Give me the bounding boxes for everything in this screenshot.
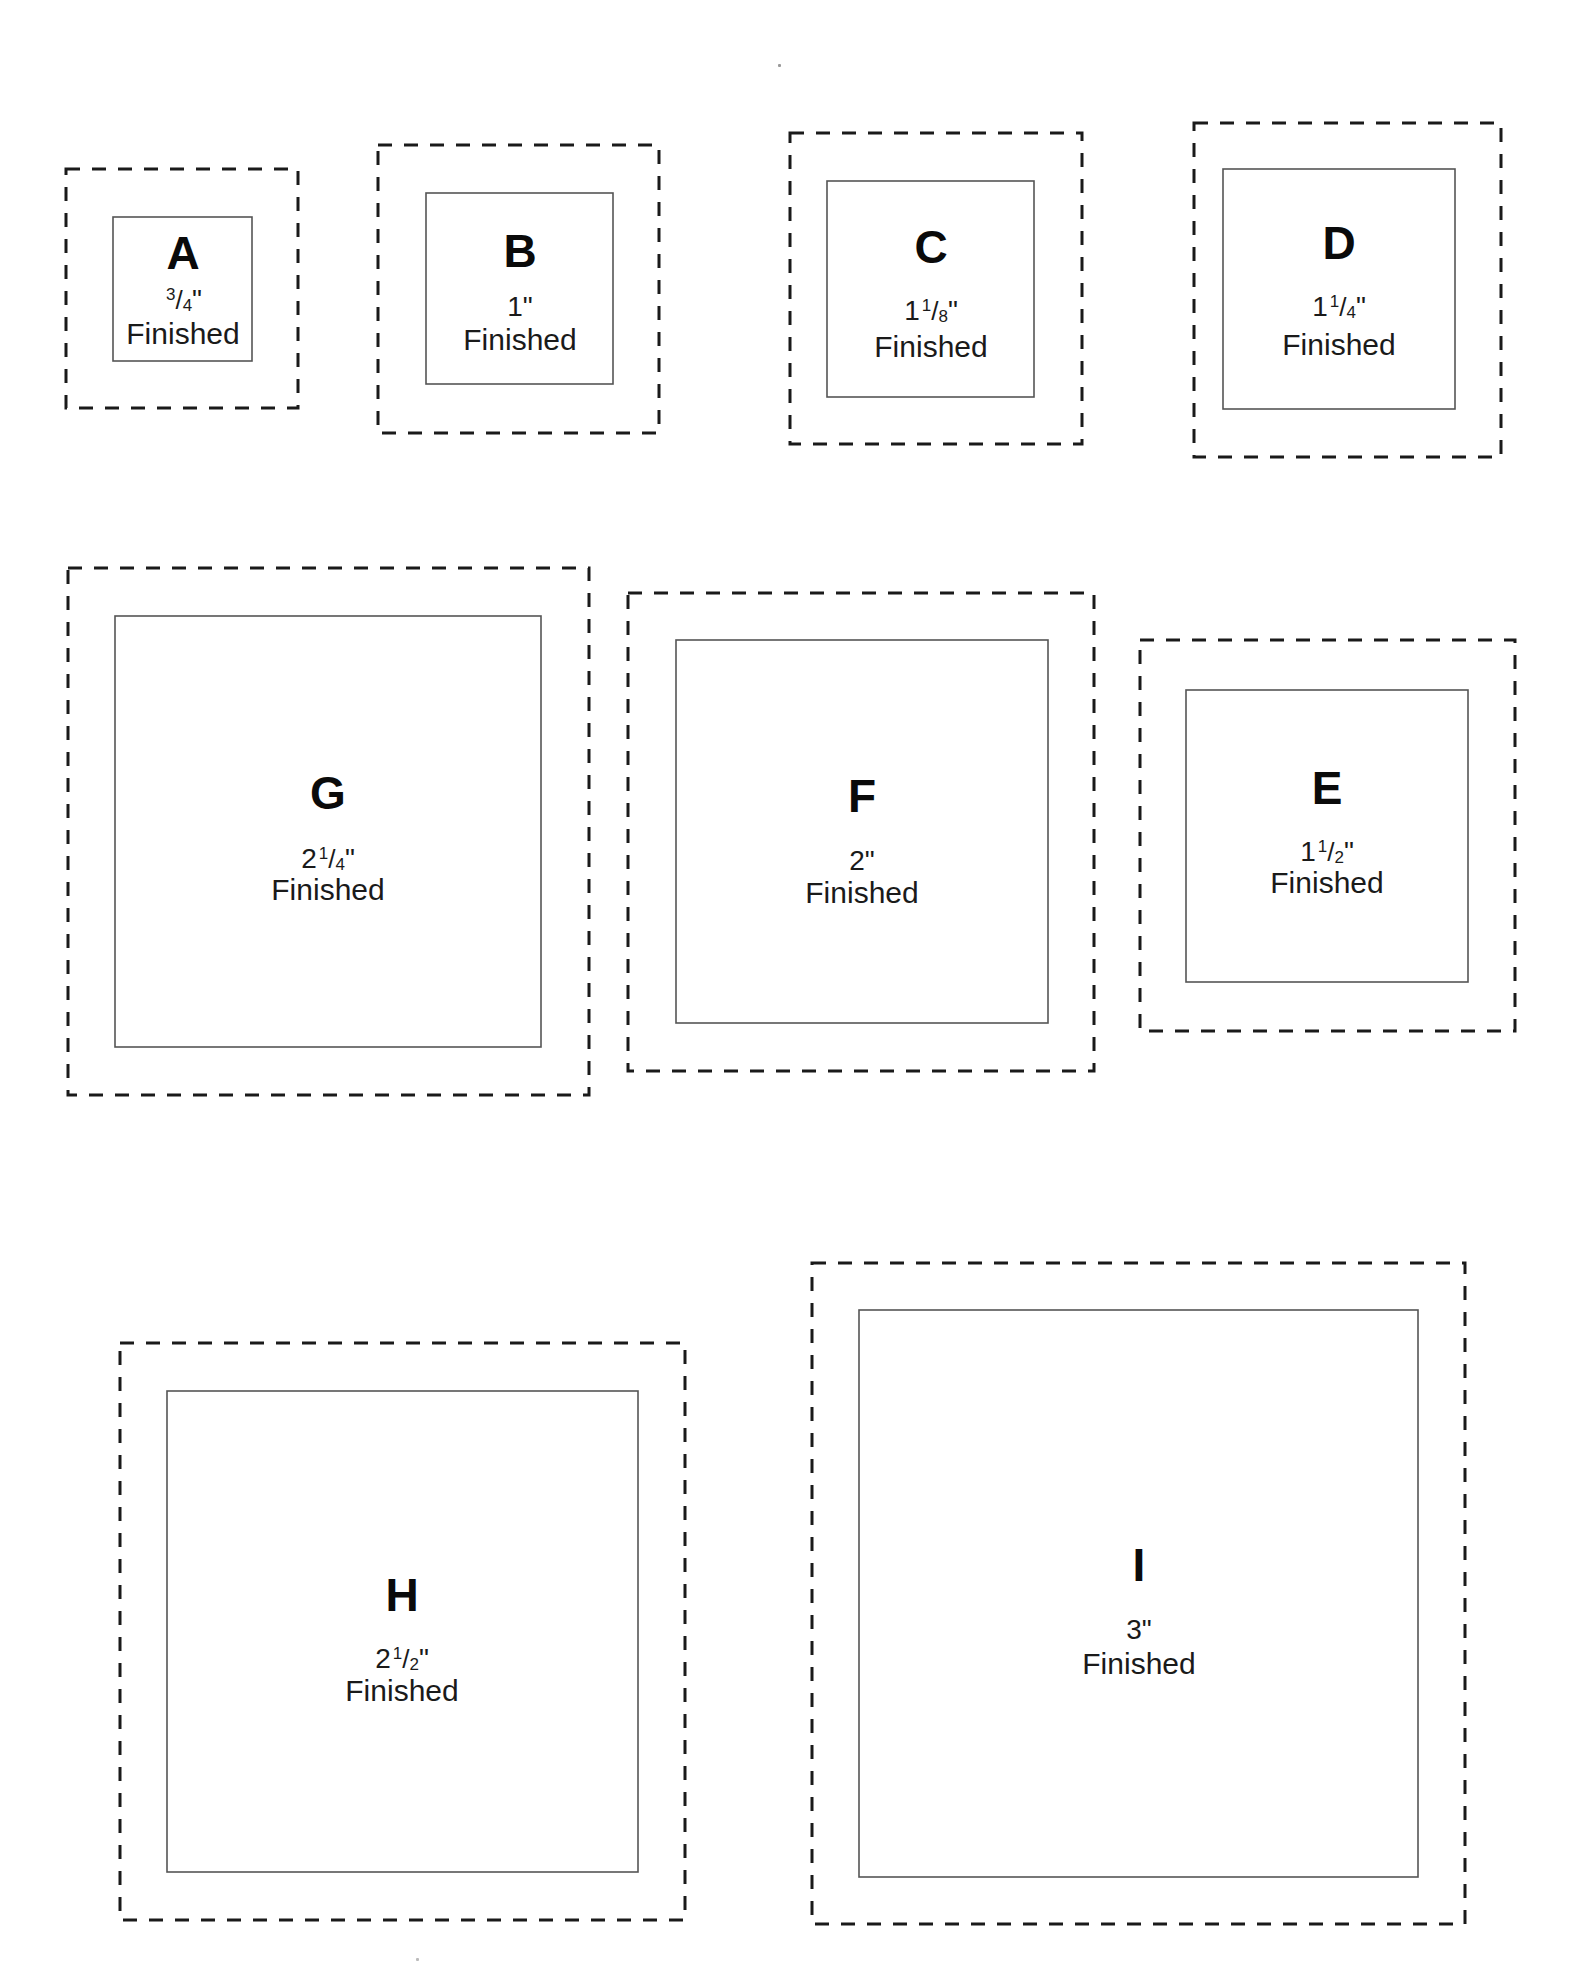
finished-size-value: 11/4" <box>1189 293 1489 325</box>
finished-label: Finished <box>252 1676 552 1706</box>
fraction-slash: / <box>175 285 182 315</box>
size-whole: 3 <box>1126 1614 1142 1645</box>
square-h <box>120 1343 685 1920</box>
fraction-denominator: 8 <box>938 307 947 326</box>
print-speck <box>416 1958 419 1961</box>
inch-mark: " <box>419 1643 429 1674</box>
inch-mark: " <box>1356 291 1366 322</box>
finished-label: Finished <box>370 325 670 355</box>
finished-size-outline <box>827 181 1034 397</box>
finished-size-value: 11/8" <box>781 297 1081 329</box>
finished-size-value: 2" <box>712 847 1012 875</box>
inch-mark: " <box>192 284 202 315</box>
fraction-denominator: 2 <box>1334 848 1343 867</box>
finished-label: Finished <box>712 878 1012 908</box>
square-letter: A <box>33 230 333 276</box>
square-g <box>68 568 589 1095</box>
fraction-denominator: 2 <box>409 1655 418 1674</box>
fraction-denominator: 4 <box>183 296 192 315</box>
seam-allowance-dashed-outline <box>378 145 659 433</box>
square-letter: B <box>370 228 670 274</box>
inch-mark: " <box>1344 836 1354 867</box>
square-letter: I <box>989 1542 1289 1588</box>
fraction-denominator: 4 <box>335 855 344 874</box>
square-d <box>1194 123 1501 457</box>
inch-mark: " <box>1142 1614 1152 1645</box>
square-letter: C <box>781 224 1081 270</box>
seam-allowance-dashed-outline <box>812 1263 1465 1924</box>
inch-mark: " <box>865 845 875 876</box>
fraction-numerator: 1 <box>1330 292 1339 311</box>
size-whole: 2 <box>849 845 865 876</box>
square-c <box>790 133 1082 444</box>
inch-mark: " <box>948 295 958 326</box>
square-letter: F <box>712 773 1012 819</box>
square-e <box>1140 640 1515 1031</box>
size-whole: 1 <box>1312 291 1328 322</box>
seam-allowance-dashed-outline <box>120 1343 685 1920</box>
square-i <box>812 1263 1465 1924</box>
finished-label: Finished <box>989 1649 1289 1679</box>
seam-allowance-dashed-outline <box>628 593 1094 1071</box>
finished-size-value: 3/4" <box>33 286 333 318</box>
finished-label: Finished <box>1189 330 1489 360</box>
finished-size-outline <box>1223 169 1455 409</box>
size-whole: 1 <box>904 295 920 326</box>
square-f <box>628 593 1094 1071</box>
inch-mark: " <box>523 291 533 322</box>
seam-allowance-dashed-outline <box>68 568 589 1095</box>
finished-size-value: 3" <box>989 1616 1289 1644</box>
fraction-numerator: 1 <box>1318 837 1327 856</box>
square-b <box>378 145 659 433</box>
size-whole: 2 <box>301 843 317 874</box>
seam-allowance-dashed-outline <box>1140 640 1515 1031</box>
inch-mark: " <box>345 843 355 874</box>
finished-size-outline <box>115 616 541 1047</box>
size-whole: 1 <box>1300 836 1316 867</box>
finished-size-value: 21/2" <box>252 1645 552 1677</box>
finished-size-outline <box>1186 690 1468 982</box>
finished-label: Finished <box>1177 868 1477 898</box>
fraction-numerator: 1 <box>319 844 328 863</box>
finished-size-outline <box>859 1310 1418 1877</box>
finished-size-outline <box>676 640 1048 1023</box>
fraction-numerator: 1 <box>922 296 931 315</box>
fraction-numerator: 3 <box>166 285 175 304</box>
size-whole: 1 <box>507 291 523 322</box>
size-whole: 2 <box>375 1643 391 1674</box>
fraction-denominator: 4 <box>1346 303 1355 322</box>
finished-label: Finished <box>781 332 1081 362</box>
square-letter: G <box>178 770 478 816</box>
square-letter: E <box>1177 765 1477 811</box>
print-speck <box>778 64 781 67</box>
square-letter: H <box>252 1572 552 1618</box>
fraction-numerator: 1 <box>393 1644 402 1663</box>
square-letter: D <box>1189 220 1489 266</box>
finished-label: Finished <box>178 875 478 905</box>
finished-label: Finished <box>33 319 333 349</box>
finished-size-value: 1" <box>370 293 670 321</box>
finished-size-outline <box>167 1391 638 1872</box>
